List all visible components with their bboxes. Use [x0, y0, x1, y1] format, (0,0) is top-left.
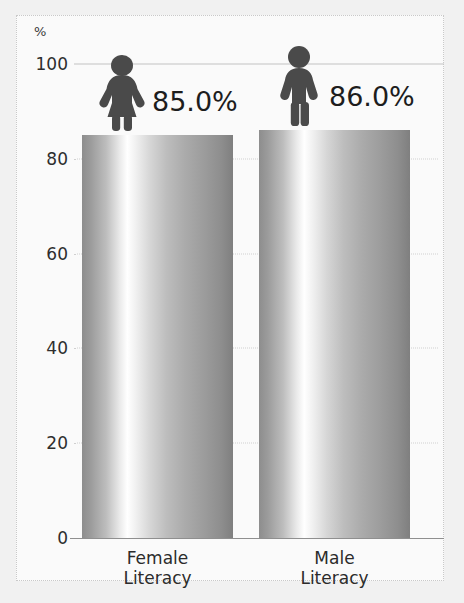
female-pictogram-icon: [94, 55, 150, 135]
y-axis-unit-label: %: [34, 24, 46, 39]
y-tick-label-80: 80: [26, 149, 68, 169]
bar-2[interactable]: [259, 130, 410, 538]
male-pictogram-icon: [271, 46, 327, 130]
y-tick-label-60: 60: [26, 244, 68, 264]
y-tick-label-20: 20: [26, 433, 68, 453]
y-tick-label-40: 40: [26, 338, 68, 358]
chart-root: % 100806040200 85.0%Female Literacy86.0%…: [0, 0, 464, 603]
bar-1[interactable]: [82, 135, 233, 538]
category-label-1: Female Literacy: [82, 548, 233, 588]
category-label-2: Male Literacy: [259, 548, 410, 588]
y-tick-label-0: 0: [26, 528, 68, 548]
y-tick-label-100: 100: [26, 54, 68, 74]
value-label-1: 85.0%: [152, 86, 238, 117]
plot-area: % 100806040200 85.0%Female Literacy86.0%…: [0, 0, 464, 603]
value-label-2: 86.0%: [329, 81, 415, 112]
axis-baseline: [70, 538, 444, 539]
